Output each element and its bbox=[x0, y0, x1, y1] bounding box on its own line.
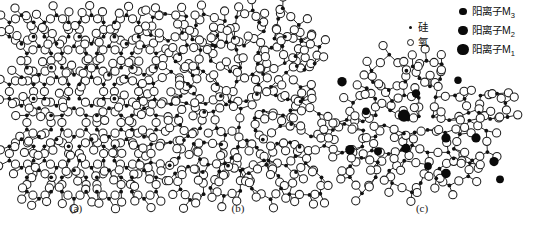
legend: 硅 氧 阳离子M3 阳离子M2 bbox=[402, 2, 539, 60]
cation-m2 bbox=[471, 133, 480, 142]
legend-item-oxygen: 氧 bbox=[402, 35, 448, 50]
cation-m2-subscript: 2 bbox=[511, 30, 515, 39]
panel-label-c: (c) bbox=[402, 202, 442, 214]
cation-m2 bbox=[337, 77, 346, 86]
cation-m2 bbox=[345, 145, 355, 155]
cation-m3-text: 阳离子M bbox=[472, 5, 511, 17]
legend-item-cation-m3: 阳离子M3 bbox=[454, 2, 539, 21]
cation-m1-icon bbox=[454, 44, 472, 56]
cation-m2-text: 阳离子M bbox=[472, 24, 511, 36]
legend-cations-group: 阳离子M3 阳离子M2 阳离子M1 bbox=[454, 2, 539, 59]
legend-item-cation-m1: 阳离子M1 bbox=[454, 40, 539, 59]
cation-m3 bbox=[454, 77, 461, 84]
cation-m1-text: 阳离子M bbox=[472, 43, 511, 55]
silicate-structure-figure: (a) (b) (c) 硅 氧 阳离子M3 bbox=[0, 0, 539, 237]
legend-atoms-group: 硅 氧 bbox=[402, 20, 448, 50]
cation-m2 bbox=[401, 144, 410, 153]
legend-item-cation-m2: 阳离子M2 bbox=[454, 21, 539, 40]
legend-label-cation-m3: 阳离子M3 bbox=[472, 3, 515, 20]
legend-label-silicon: 硅 bbox=[418, 22, 428, 33]
cation-m2-icon bbox=[454, 26, 472, 35]
legend-item-silicon: 硅 bbox=[402, 20, 448, 35]
cation-m3 bbox=[412, 89, 420, 97]
cation-m3 bbox=[362, 107, 370, 115]
legend-label-oxygen: 氧 bbox=[418, 37, 428, 48]
cation-m3 bbox=[374, 147, 382, 155]
legend-label-cation-m1: 阳离子M1 bbox=[472, 41, 515, 58]
oxygen-circle-icon bbox=[402, 39, 418, 46]
cation-m3-icon bbox=[454, 8, 472, 15]
panel-label-a: (a) bbox=[56, 202, 96, 214]
cation-m2 bbox=[441, 133, 450, 142]
cation-m3-subscript: 3 bbox=[511, 11, 515, 20]
cation-m2 bbox=[441, 169, 450, 178]
cation-m3 bbox=[496, 175, 504, 183]
cation-m1 bbox=[398, 110, 410, 122]
cation-m3 bbox=[424, 162, 432, 170]
cation-m1-subscript: 1 bbox=[511, 49, 515, 58]
panel-label-b: (b) bbox=[218, 202, 258, 214]
cation-m2 bbox=[489, 157, 498, 166]
silicon-dot-icon bbox=[402, 26, 418, 29]
legend-label-cation-m2: 阳离子M2 bbox=[472, 22, 515, 39]
